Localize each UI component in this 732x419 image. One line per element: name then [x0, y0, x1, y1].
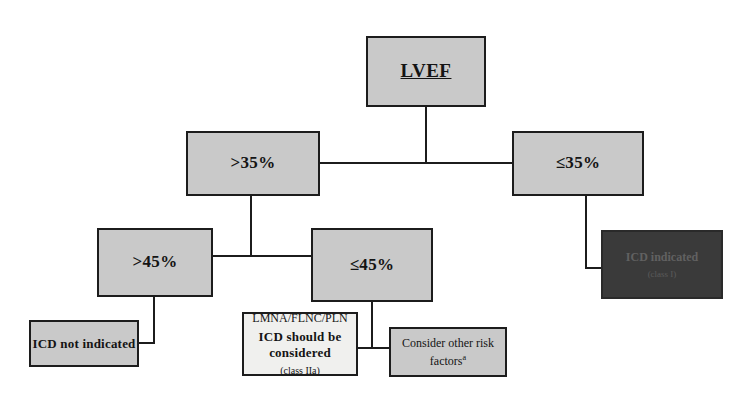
node-icd-should-be-considered[interactable]: LMNA/FLNC/PLN ICD should be considered (… [242, 312, 358, 376]
node-lvef-le35-label: ≤35% [556, 153, 601, 173]
node-other-risk-label-line2: factorsa [430, 354, 466, 368]
node-icd-considered-class: (class IIa) [280, 365, 320, 377]
node-icd-not-indicated[interactable]: ICD not indicated [29, 320, 139, 367]
footnote-marker-a: a [463, 353, 467, 362]
node-icd-indicated-label: ICD indicated [626, 250, 698, 264]
node-icd-considered-label-line2: considered [269, 345, 331, 360]
node-icd-considered-label-line1: ICD should be [259, 329, 342, 344]
node-lvef-gt35[interactable]: >35% [186, 131, 320, 196]
edge-le35-to-icd-indicated [586, 196, 601, 268]
node-icd-considered-genes: LMNA/FLNC/PLN [252, 311, 347, 325]
node-other-risk-label-line1: Consider other risk [402, 336, 494, 350]
node-lvef-gt35-label: >35% [231, 153, 276, 173]
node-icd-indicated-class: (class I) [648, 269, 677, 280]
node-lvef-le35[interactable]: ≤35% [512, 131, 644, 196]
node-icd-not-indicated-label: ICD not indicated [32, 336, 135, 351]
node-lvef-gt45-label: >45% [133, 252, 178, 272]
node-lvef-gt45[interactable]: >45% [97, 228, 213, 297]
node-lvef-le45-label: ≤45% [350, 255, 395, 275]
lvef-icd-flowchart: LVEF >35% ≤35% >45% ≤45% ICD indicated (… [0, 0, 732, 419]
node-lvef-le45[interactable]: ≤45% [311, 228, 433, 302]
node-consider-other-risk-factors[interactable]: Consider other risk factorsa [389, 327, 507, 377]
node-icd-indicated[interactable]: ICD indicated (class I) [601, 230, 723, 299]
node-other-risk-label-line2-text: factors [430, 354, 463, 368]
node-lvef-root-label: LVEF [401, 60, 452, 82]
node-lvef-root[interactable]: LVEF [366, 36, 486, 107]
edge-gt45-to-not-indicated [139, 297, 154, 343]
